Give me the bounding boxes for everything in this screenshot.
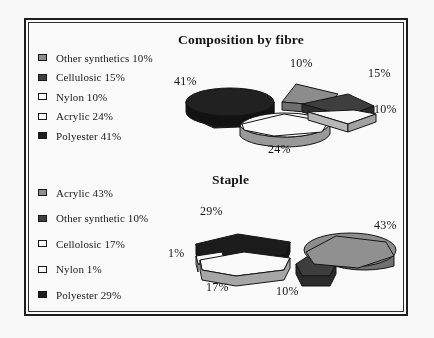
legend-swatch-icon — [38, 132, 47, 139]
legend-swatch-icon — [38, 93, 47, 100]
legend-item-label: Acrylic 24% — [56, 110, 113, 122]
legend-swatch-icon — [38, 240, 47, 247]
pie-value-label-cellolosic: 17% — [206, 280, 229, 295]
pie-chart-composition-by-fibre: 41% 10% 15% 10% 24% — [178, 54, 406, 166]
legend-item: Cellolosic 17% — [38, 231, 148, 257]
figure-border: Composition by fibre Other synthetics 10… — [24, 18, 408, 316]
legend-item-label: Cellulosic 15% — [56, 71, 125, 83]
legend-item: Other synthetic 10% — [38, 206, 148, 232]
legend-item-label: Acrylic 43% — [56, 187, 113, 199]
legend-swatch-icon — [38, 113, 47, 120]
pie-value-label-nylon: 1% — [168, 246, 184, 261]
legend-staple: Acrylic 43% Other synthetic 10% Cellolos… — [38, 180, 148, 308]
legend-item: Polyester 41% — [38, 126, 153, 146]
legend-item: Nylon 1% — [38, 257, 148, 283]
legend-item: Acrylic 43% — [38, 180, 148, 206]
legend-item-label: Polyester 29% — [56, 289, 121, 301]
legend-swatch-icon — [38, 291, 47, 298]
legend-item-label: Other synthetics 10% — [56, 52, 153, 64]
pie-value-label-other-synthetics: 10% — [290, 56, 313, 71]
legend-composition-by-fibre: Other synthetics 10% Cellulosic 15% Nylo… — [38, 48, 153, 146]
legend-swatch-icon — [38, 189, 47, 196]
figure-page: Composition by fibre Other synthetics 10… — [0, 0, 434, 338]
pie-value-label-cellulosic: 15% — [368, 66, 391, 81]
legend-item-label: Nylon 1% — [56, 263, 102, 275]
pie-value-label-polyester: 29% — [200, 204, 223, 219]
chart-title-composition-by-fibre: Composition by fibre — [178, 32, 304, 48]
pie-slice-acrylic — [304, 233, 396, 270]
legend-item: Nylon 10% — [38, 87, 153, 107]
legend-swatch-icon — [38, 266, 47, 273]
pie-value-label-polyester: 41% — [174, 74, 197, 89]
pie-value-label-nylon: 10% — [374, 102, 397, 117]
legend-item: Cellulosic 15% — [38, 68, 153, 88]
legend-swatch-icon — [38, 74, 47, 81]
legend-item: Other synthetics 10% — [38, 48, 153, 68]
legend-item: Polyester 29% — [38, 282, 148, 308]
chart-title-staple: Staple — [212, 172, 249, 188]
figure-content: Composition by fibre Other synthetics 10… — [26, 20, 406, 314]
pie-value-label-acrylic: 43% — [374, 218, 397, 233]
pie-value-label-other-synthetic: 10% — [276, 284, 299, 299]
legend-item-label: Cellolosic 17% — [56, 238, 125, 250]
legend-item-label: Nylon 10% — [56, 91, 107, 103]
pie-value-label-acrylic: 24% — [268, 142, 291, 157]
pie-chart-staple: 29% 1% 17% 10% 43% — [178, 208, 406, 314]
legend-item-label: Other synthetic 10% — [56, 212, 148, 224]
legend-item: Acrylic 24% — [38, 107, 153, 127]
legend-swatch-icon — [38, 54, 47, 61]
legend-item-label: Polyester 41% — [56, 130, 121, 142]
legend-swatch-icon — [38, 215, 47, 222]
